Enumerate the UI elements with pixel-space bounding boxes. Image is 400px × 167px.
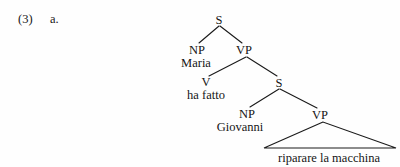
terminal-triangle xyxy=(264,122,396,148)
tree-terminal-giovanni: Giovanni xyxy=(217,121,264,134)
tree-node-np-subject: NP xyxy=(189,44,205,57)
tree-terminal-riparare-la-macchina: riparare la macchina xyxy=(278,152,380,165)
tree-node-v-causative: V xyxy=(201,76,210,89)
branch-vp1-s2 xyxy=(247,57,277,76)
tree-terminal-ha-fatto: ha fatto xyxy=(187,89,225,102)
tree-terminal-maria: Maria xyxy=(181,57,211,70)
tree-node-s-embedded: S xyxy=(275,77,282,90)
tree-node-vp-matrix: VP xyxy=(236,44,252,57)
tree-node-s-matrix: S xyxy=(215,14,222,27)
tree-node-vp-embedded: VP xyxy=(312,109,328,122)
branch-vp1-v1 xyxy=(209,57,246,76)
example-figure: (3) a. S NP VP V S NP VP Maria ha fatto … xyxy=(0,0,400,167)
branch-s2-vp2 xyxy=(280,89,317,108)
tree-branch-lines xyxy=(0,0,400,167)
branch-s1-np1 xyxy=(199,26,219,43)
branch-s1-vp1 xyxy=(220,26,242,43)
tree-node-np-embedded-subject: NP xyxy=(239,108,255,121)
branch-s2-np2 xyxy=(250,89,279,107)
